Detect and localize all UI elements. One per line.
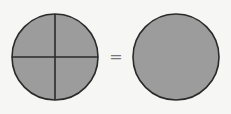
- equals-sign: =: [109, 47, 122, 66]
- left-circle-quarters: [12, 14, 98, 100]
- right-circle-whole: [133, 14, 219, 100]
- right-circle: [133, 14, 219, 100]
- fraction-diagram: =: [0, 0, 231, 114]
- diagram-canvas: =: [0, 0, 231, 114]
